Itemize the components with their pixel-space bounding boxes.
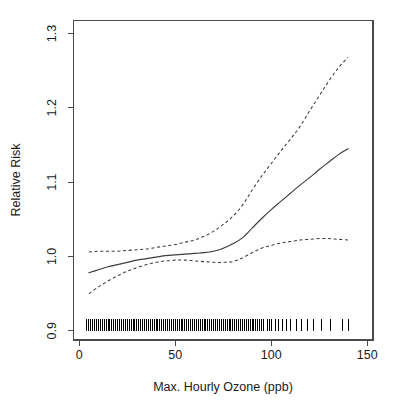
x-tick-label: 150 (357, 348, 378, 362)
y-tick-label: 1.2 (45, 99, 59, 116)
x-tick-label: 50 (168, 348, 182, 362)
relative-risk-ozone-plot: 0.91.01.11.21.3 050100150 Max. Hourly Oz… (0, 0, 394, 412)
plot-background (0, 0, 394, 412)
x-tick-label: 0 (76, 348, 83, 362)
y-tick-label: 1.0 (45, 248, 59, 265)
x-axis-title: Max. Hourly Ozone (ppb) (153, 380, 293, 394)
y-tick-label: 0.9 (45, 322, 59, 339)
chart-container: 0.91.01.11.21.3 050100150 Max. Hourly Oz… (0, 0, 394, 412)
y-tick-label: 1.3 (45, 25, 59, 42)
x-tick-label: 100 (261, 348, 282, 362)
y-tick-label: 1.1 (45, 173, 59, 190)
y-axis-title: Relative Risk (9, 143, 23, 217)
